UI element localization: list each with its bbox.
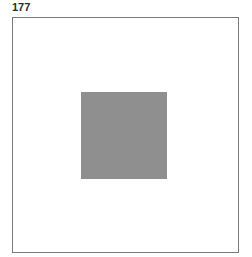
gray-square bbox=[81, 92, 167, 179]
image-number-label: 177 bbox=[12, 1, 30, 13]
